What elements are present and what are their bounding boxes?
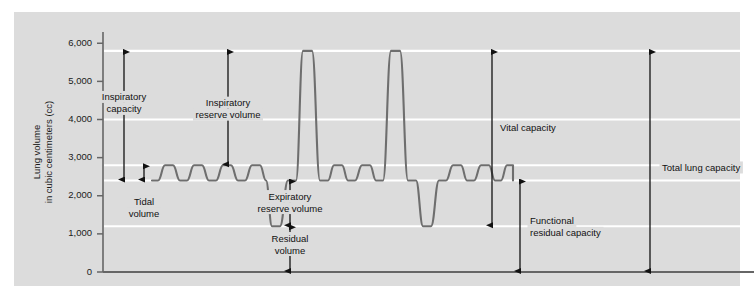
y-tick-label-2000: 2,000	[68, 189, 92, 200]
annotation-label-tidal-volume: Tidal	[134, 196, 154, 207]
annotation-label2-inspiratory-capacity: capacity	[107, 103, 142, 114]
spirometry-figure: 6,0005,0004,0003,0002,0001,0000 Lung vol…	[0, 0, 754, 303]
chart-panel-background	[14, 12, 740, 286]
y-tick-label-5000: 5,000	[68, 75, 92, 86]
annotation-label2-tidal-volume: volume	[129, 208, 160, 219]
y-tick-label-4000: 4,000	[68, 113, 92, 124]
annotation-label-functional-residual-capacity: Functional	[530, 215, 574, 226]
y-axis-title-line2: in cubic centimeters (cc)	[43, 101, 54, 203]
annotation-label-inspiratory-reserve-volume: Inspiratory	[206, 97, 251, 108]
annotation-label2-inspiratory-reserve-volume: reserve volume	[196, 109, 261, 120]
annotation-label-total-lung-capacity: Total lung capacity	[662, 162, 740, 173]
y-tick-label-1000: 1,000	[68, 227, 92, 238]
annotation-label2-residual-volume: volume	[275, 245, 306, 256]
annotation-label-residual-volume: Residual	[272, 233, 309, 244]
y-tick-label-3000: 3,000	[68, 151, 92, 162]
y-tick-label-0: 0	[87, 266, 92, 277]
y-axis-title-line1: Lung volume	[31, 125, 42, 179]
lung-volume-chart: 6,0005,0004,0003,0002,0001,0000 Lung vol…	[0, 0, 754, 303]
annotation-label-vital-capacity: Vital capacity	[500, 122, 556, 133]
annotation-label2-functional-residual-capacity: residual capacity	[530, 227, 601, 238]
annotation-label-expiratory-reserve-volume: Expiratory	[269, 191, 312, 202]
annotation-label2-expiratory-reserve-volume: reserve volume	[258, 203, 323, 214]
y-tick-label-6000: 6,000	[68, 37, 92, 48]
annotation-label-inspiratory-capacity: Inspiratory	[102, 91, 147, 102]
